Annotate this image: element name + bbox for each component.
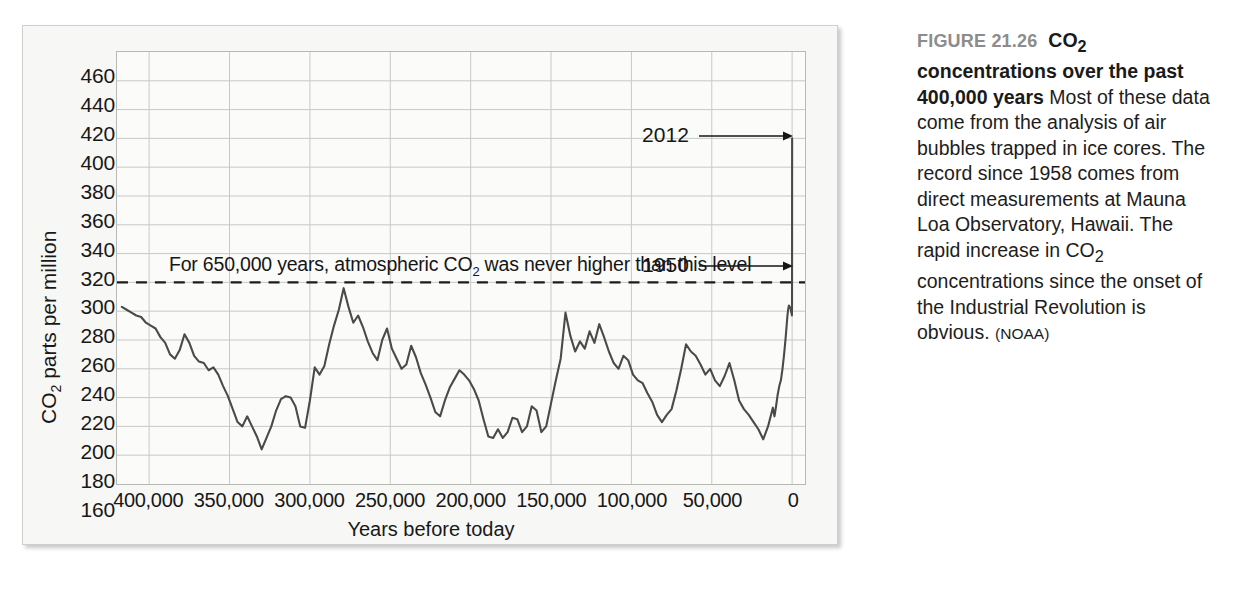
y-tick-320: 320	[53, 268, 115, 289]
annotation-1950-label: 1950	[642, 253, 689, 276]
y-tick-160: 160	[53, 499, 115, 520]
y-tick-300: 300	[53, 296, 115, 317]
y-tick-340: 340	[53, 239, 115, 260]
x-axis-title: Years before today	[23, 518, 839, 541]
y-tick-360: 360	[53, 210, 115, 231]
x-tick-150000: 150,000	[516, 489, 586, 512]
x-tick-labels: 400,000350,000300,000250,000200,000150,0…	[116, 489, 806, 517]
x-tick-200000: 200,000	[436, 489, 506, 512]
x-tick-400000: 400,000	[113, 489, 183, 512]
y-tick-400: 400	[53, 152, 115, 173]
y-tick-380: 380	[53, 181, 115, 202]
annotation-2012-arrow-icon	[699, 129, 795, 143]
y-tick-240: 240	[53, 383, 115, 404]
chart-panel: CO2 parts per million 460440420400380360…	[22, 25, 838, 545]
y-tick-420: 420	[53, 123, 115, 144]
caption-figure-number: FIGURE 21.26	[917, 31, 1037, 51]
y-tick-labels: 4604404204003803603403203002802602402202…	[45, 51, 115, 485]
y-tick-200: 200	[53, 441, 115, 462]
caption-headline-sub: 2	[1078, 37, 1087, 55]
y-tick-260: 260	[53, 354, 115, 375]
y-tick-440: 440	[53, 94, 115, 115]
caption-headline-co: CO	[1048, 29, 1077, 51]
y-tick-280: 280	[53, 325, 115, 346]
x-tick-50000: 50,000	[683, 489, 742, 512]
caption-body-sub: 2	[1095, 247, 1104, 265]
x-tick-100000: 100,000	[597, 489, 667, 512]
x-tick-300000: 300,000	[274, 489, 344, 512]
annotation-2012: 2012	[642, 123, 795, 147]
caption-credit: (NOAA)	[995, 325, 1049, 342]
threshold-text-1: For 650,000 years, atmospheric CO	[169, 253, 472, 275]
x-tick-350000: 350,000	[194, 489, 264, 512]
figure-container: CO2 parts per million 460440420400380360…	[0, 0, 1234, 594]
caption-body-2: concentrations since the onset of the In…	[917, 270, 1202, 343]
y-tick-460: 460	[53, 65, 115, 86]
annotation-1950: 1950	[642, 253, 795, 277]
y-tick-180: 180	[53, 470, 115, 491]
x-tick-0: 0	[788, 489, 799, 512]
annotation-2012-label: 2012	[642, 123, 689, 146]
figure-caption: FIGURE 21.26 CO2 concentrations over the…	[917, 28, 1217, 347]
annotation-1950-arrow-icon	[699, 259, 795, 273]
x-tick-250000: 250,000	[355, 489, 425, 512]
y-tick-220: 220	[53, 412, 115, 433]
plot-area: For 650,000 years, atmospheric CO2 was n…	[116, 51, 806, 485]
caption-body-1: Most of these data come from the analysi…	[917, 86, 1210, 261]
